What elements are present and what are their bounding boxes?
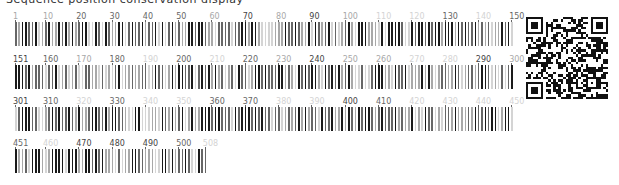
position-bar [195,65,197,89]
position-bar [295,65,297,89]
position-bar [75,65,77,89]
position-bar [341,65,343,89]
position-bar [381,65,383,89]
position-bar [182,149,184,173]
position-bar [405,22,407,46]
position-bar [205,65,207,89]
position-bar [258,22,260,46]
position-bar [268,107,270,131]
position-bar [238,107,240,131]
position-bar [491,107,493,131]
position-bar [275,107,277,131]
position-bar [58,149,60,173]
position-bar [45,149,47,173]
position-bar [488,107,490,131]
position-bar [188,149,190,173]
position-bar [425,65,427,89]
position-bar [155,65,157,89]
position-bar [105,149,107,173]
position-bar [508,65,510,89]
position-bar [288,65,290,89]
position-bar [241,65,243,89]
position-bar [405,107,407,131]
position-bar [385,65,387,89]
position-bar [225,107,227,131]
position-bar [368,22,370,46]
position-bar [205,107,207,131]
position-bar [68,65,70,89]
position-bar [92,22,94,46]
position-bar [162,22,164,46]
position-bar [168,107,170,131]
position-bar [261,22,263,46]
position-bar [158,22,160,46]
position-bar [498,22,500,46]
position-bar [98,65,100,89]
position-bar [155,107,157,131]
position-bar [481,22,483,46]
position-bar [158,107,160,131]
position-bar [198,107,200,131]
position-bar [188,65,190,89]
position-bar [105,22,107,46]
position-bar [241,107,243,131]
position-bar [401,22,403,46]
clipped-header-text: Sequence position conservation display [6,0,243,6]
position-bar [88,65,90,89]
position-bar [105,107,107,131]
position-bar [291,107,293,131]
position-bar [168,149,170,173]
position-bar [135,22,137,46]
position-bar [455,22,457,46]
position-bar [251,65,253,89]
position-bar [278,107,280,131]
position-bar [385,22,387,46]
position-bar [328,22,330,46]
position-bar [185,149,187,173]
position-bar [341,107,343,131]
position-bar [275,22,277,46]
position-bar [375,22,377,46]
position-bar [315,107,317,131]
position-bar [211,65,213,89]
position-bar [112,107,114,131]
position-bar [265,65,267,89]
position-bar [98,149,100,173]
position-bar [188,107,190,131]
position-bar [275,65,277,89]
position-bar [55,22,57,46]
position-bar [178,22,180,46]
position-bar [221,22,223,46]
position-bar [88,149,90,173]
position-bar [228,65,230,89]
position-bar [285,22,287,46]
position-bar [125,149,127,173]
position-bar [191,107,193,131]
position-bar [201,149,203,173]
position-bar [208,22,210,46]
position-bar [82,149,84,173]
position-bar [58,22,60,46]
position-bar [495,107,497,131]
position-bar [338,65,340,89]
position-bar [298,107,300,131]
position-bar [82,65,84,89]
position-bar [451,107,453,131]
position-bar [155,149,157,173]
position-bar [408,107,410,131]
position-bar [475,107,477,131]
position-bar [308,22,310,46]
position-bar [335,22,337,46]
position-bar [98,107,100,131]
position-bar [435,22,437,46]
conservation-bars [0,65,520,89]
position-bar [345,22,347,46]
position-bar [495,22,497,46]
position-bar [182,65,184,89]
position-bar [461,65,463,89]
position-bar [85,22,87,46]
position-bar [75,107,77,131]
position-bar [378,65,380,89]
qr-code [526,17,608,99]
position-bar [142,107,144,131]
